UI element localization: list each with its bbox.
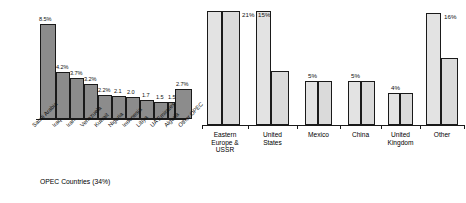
bar-eastern-europe-ussr-back bbox=[222, 11, 240, 125]
group-tick-2 bbox=[297, 125, 298, 129]
opec-caption: OPEC Countries (34%) bbox=[40, 178, 110, 185]
bar-china-front bbox=[348, 81, 361, 125]
value-label-algeria: 1.5 bbox=[168, 94, 175, 100]
group-tick-3 bbox=[340, 125, 341, 129]
group-tick-5 bbox=[420, 125, 421, 129]
value-label-saudi-arabia: 8.5% bbox=[39, 16, 51, 22]
group-label-united-states: United States bbox=[248, 131, 297, 146]
group-tick-0 bbox=[202, 125, 203, 129]
value-label-iran: 3.7% bbox=[70, 70, 82, 76]
value-label-kuwait: 2.2% bbox=[98, 87, 110, 93]
value-label-ua-emirates: 1.5 bbox=[156, 94, 163, 100]
value-label-nigeria: 2.1 bbox=[114, 88, 121, 94]
value-label-eastern-europe-ussr: 21% bbox=[242, 11, 254, 18]
bar-mexico-front bbox=[305, 81, 318, 125]
value-label-other-opec: 2.7% bbox=[176, 81, 188, 87]
bar-united-kingdom-front bbox=[388, 93, 400, 125]
value-label-venezuela: 3.2% bbox=[84, 76, 96, 82]
bar-iraq bbox=[56, 72, 70, 119]
bar-united-kingdom-back bbox=[400, 93, 413, 125]
bar-china-back bbox=[361, 81, 375, 125]
value-label-libya: 1.7 bbox=[142, 92, 149, 98]
group-tick-6 bbox=[464, 125, 465, 129]
value-label-mexico: 5% bbox=[308, 72, 317, 79]
value-label-china: 5% bbox=[351, 72, 360, 79]
non-opec-axis-baseline bbox=[202, 125, 464, 126]
bar-mexico-back bbox=[318, 81, 332, 125]
group-label-mexico: Mexico bbox=[297, 131, 340, 139]
group-label-eastern-europe-ussr: Eastern Europe & USSR bbox=[202, 131, 248, 154]
bar-eastern-europe-ussr-front bbox=[207, 11, 222, 125]
group-tick-1 bbox=[248, 125, 249, 129]
value-label-iraq: 4.2% bbox=[56, 64, 68, 70]
bar-united-states-back bbox=[271, 71, 289, 125]
value-label-other: 16% bbox=[444, 13, 456, 20]
bar-iran bbox=[70, 78, 84, 119]
group-label-china: China bbox=[340, 131, 381, 139]
non-opec-panel: 21% 15% 5% 5% 4% 16% Eastern Europe & US… bbox=[198, 0, 466, 203]
bar-united-states-front bbox=[256, 11, 271, 125]
group-label-other: Other bbox=[420, 131, 464, 139]
group-tick-4 bbox=[381, 125, 382, 129]
bar-other-front bbox=[426, 13, 441, 125]
value-label-united-kingdom: 4% bbox=[391, 84, 400, 91]
bar-other-back bbox=[441, 58, 458, 125]
value-label-united-states: 15% bbox=[258, 11, 270, 18]
group-label-united-kingdom: United Kingdom bbox=[381, 131, 420, 146]
value-label-indonesia: 2.0 bbox=[127, 89, 134, 95]
oil-production-bar-chart: 8.5% 4.2% 3.7% 3.2% 2.2% 2.1 2.0 1.7 1.5… bbox=[0, 0, 466, 203]
